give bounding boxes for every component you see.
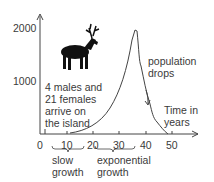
x-ticks <box>45 129 172 134</box>
y-tick-2000: 2000 <box>13 22 36 34</box>
annotation-slow-2: growth <box>52 167 84 178</box>
x-tick-50: 50 <box>166 139 178 151</box>
x-tick-40: 40 <box>140 139 152 151</box>
x-tick-10: 10 <box>61 139 73 151</box>
annotation-arrival-3: arrive on <box>45 106 86 117</box>
x-tick-30: 30 <box>113 139 125 151</box>
x-tick-0: 0 <box>37 139 43 151</box>
annotation-arrival-2: 21 females <box>45 94 96 105</box>
annotation-arrival-1: 4 males and <box>45 82 102 93</box>
reindeer-silhouette-icon <box>61 24 99 70</box>
annotation-drops-2: drops <box>148 68 174 79</box>
annotation-exp-2: growth <box>97 167 129 178</box>
annotation-slow-1: slow <box>52 155 73 166</box>
annotation-exp-1: exponential <box>97 155 151 166</box>
x-axis-label-1: Time in <box>164 105 198 116</box>
x-tick-20: 20 <box>87 139 99 151</box>
x-axis-label-2: years <box>164 117 190 128</box>
y-tick-1000: 1000 <box>13 75 36 87</box>
drops-arrow <box>146 90 148 104</box>
annotation-drops-1: population <box>148 56 196 67</box>
annotation-arrival-4: the island <box>45 118 90 129</box>
